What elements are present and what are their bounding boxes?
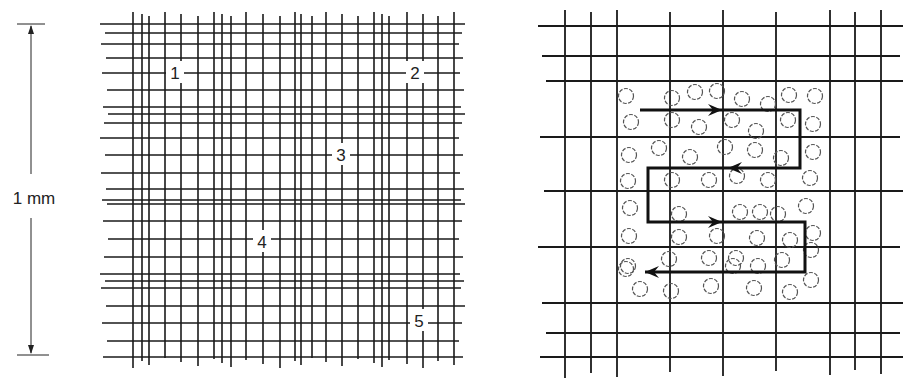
cell-icon [704, 279, 719, 294]
cell-icon [688, 85, 703, 100]
cell-icon [781, 113, 796, 128]
cell-icon [692, 120, 707, 135]
cell-icon [799, 199, 814, 214]
cell-icon [803, 171, 818, 186]
cell-icon [729, 251, 744, 266]
cell-icon [664, 284, 679, 299]
cell-icon [619, 89, 634, 104]
cell-icon [806, 226, 821, 241]
cell-icon [806, 117, 821, 132]
cell-icon [718, 140, 733, 155]
square-label-2: 2 [410, 64, 419, 83]
cell-icon [665, 173, 680, 188]
cell-icon [624, 115, 639, 130]
square-label-4: 4 [257, 233, 266, 252]
cell-icon [804, 273, 819, 288]
cell-icon [761, 173, 776, 188]
cell-icon [735, 92, 750, 107]
cell-icon [665, 113, 680, 128]
square-label-3: 3 [336, 146, 345, 165]
cell-icon [683, 150, 698, 165]
cell-icon [623, 201, 638, 216]
cell-icon [672, 230, 687, 245]
cell-icon [622, 229, 637, 244]
cell-icon [622, 148, 637, 163]
cell-icon [747, 281, 762, 296]
cell-icon [806, 145, 821, 160]
cell-icon [782, 88, 797, 103]
cell-icon [633, 282, 648, 297]
cell-icon [783, 285, 798, 300]
square-label-1: 1 [170, 64, 179, 83]
cell-icon [665, 91, 680, 106]
square-label-5: 5 [414, 312, 423, 331]
cell-icon [621, 174, 636, 189]
scale-bar-label: 1 mm [13, 189, 56, 208]
cell-icon [725, 113, 740, 128]
arrow-down-icon [28, 345, 34, 354]
cell-icon [652, 141, 667, 156]
enlarged-square-grid [538, 10, 903, 378]
cell-icon [771, 207, 786, 222]
arrow-up-icon [28, 25, 34, 34]
cell-icon [750, 231, 765, 246]
cell-icon [672, 207, 687, 222]
figure-canvas: 12345 1 mm [0, 0, 905, 390]
cell-icon [702, 173, 717, 188]
cell-icon [748, 143, 763, 158]
cell-icon [808, 89, 823, 104]
cell-icon [733, 205, 748, 220]
cell-icon [783, 233, 798, 248]
cell-icon [753, 205, 768, 220]
cell-icon [702, 251, 717, 266]
cell-icon [662, 252, 677, 267]
